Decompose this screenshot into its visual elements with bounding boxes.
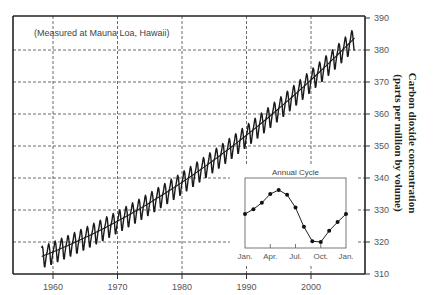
inset-data-point [327, 229, 331, 233]
y-tick-label: 350 [374, 141, 389, 151]
inset-data-point [319, 240, 323, 244]
y-axis-title: Carbon dioxide concentration (parts per … [392, 73, 419, 214]
inset-data-point [277, 188, 281, 192]
y-tick-label: 330 [374, 205, 389, 215]
inset-data-point [302, 225, 306, 229]
inset-data-point [268, 192, 272, 196]
inset-month-label: Jan. [338, 252, 353, 261]
y-tick-label: 370 [374, 77, 389, 87]
annual-cycle-inset: Annual Cycle Jan.Apr.Jul.Oct.Jan. [230, 166, 356, 264]
y-axis-title-line2: (parts per million by volume) [392, 74, 405, 212]
inset-data-point [260, 201, 264, 205]
inset-data-point [243, 212, 247, 216]
y-tick-label: 320 [374, 237, 389, 247]
y-axis-title-line1: Carbon dioxide concentration [407, 73, 419, 214]
co2-chart: (Measured at Mauna Loa, Hawaii) 19601970… [0, 0, 434, 295]
inset-data-point [310, 239, 314, 243]
location-annotation: (Measured at Mauna Loa, Hawaii) [34, 28, 170, 38]
y-axis-right: 310320330340350360370380390 [365, 13, 389, 279]
inset-data-point [344, 212, 348, 216]
x-axis: 19601970198019902000 [43, 274, 321, 292]
inset-month-label: Apr. [263, 252, 277, 261]
inset-month-label: Jan. [237, 252, 252, 261]
inset-frame [245, 178, 346, 248]
inset-data-point [285, 193, 289, 197]
x-tick-label: 1990 [236, 282, 256, 292]
y-tick-label: 380 [374, 45, 389, 55]
inset-data-point [336, 220, 340, 224]
inset-data-point [251, 207, 255, 211]
y-tick-label: 360 [374, 109, 389, 119]
y-tick-label: 310 [374, 269, 389, 279]
x-tick-label: 1970 [107, 282, 127, 292]
y-tick-label: 340 [374, 173, 389, 183]
x-tick-label: 1980 [172, 282, 192, 292]
x-tick-label: 1960 [43, 282, 63, 292]
inset-title: Annual Cycle [272, 168, 320, 177]
inset-data-point [294, 206, 298, 210]
x-tick-label: 2000 [301, 282, 321, 292]
y-tick-label: 390 [374, 13, 389, 23]
inset-month-label: Oct. [313, 252, 328, 261]
inset-month-label: Jul. [289, 252, 301, 261]
